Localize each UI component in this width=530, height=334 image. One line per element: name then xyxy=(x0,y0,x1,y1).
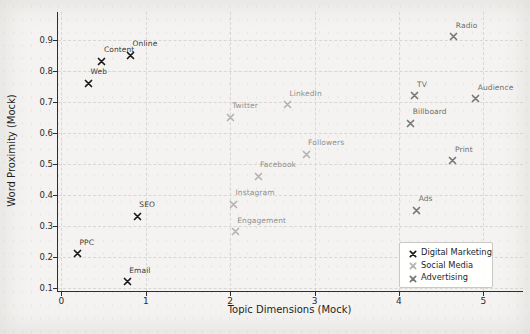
x-marker-icon xyxy=(448,156,457,165)
x-marker-icon xyxy=(412,206,421,215)
gridline-y xyxy=(58,288,523,289)
y-tick-label: 0.8 xyxy=(39,66,53,76)
data-point-label: Radio xyxy=(456,21,478,30)
y-tick-mark xyxy=(53,288,57,289)
data-point-label: Engagement xyxy=(237,216,286,225)
x-marker-icon xyxy=(123,277,132,286)
x-marker-icon xyxy=(409,275,417,283)
y-tick-label: 0.6 xyxy=(39,128,53,138)
x-marker-icon xyxy=(406,119,415,128)
y-tick-label: 0.7 xyxy=(39,97,53,107)
x-marker-icon xyxy=(471,94,480,103)
data-point-label: Billboard xyxy=(413,107,447,116)
x-marker-icon xyxy=(302,150,311,159)
y-tick-label: 0.1 xyxy=(39,283,53,293)
legend-marker xyxy=(405,268,421,287)
gridline-y xyxy=(58,133,523,134)
data-point-label: Email xyxy=(129,266,150,275)
legend-label: Digital Marketing xyxy=(421,247,492,257)
data-point-label: Instagram xyxy=(236,188,275,197)
gridline-y xyxy=(58,195,523,196)
y-tick-label: 0.9 xyxy=(39,35,53,45)
y-tick-mark xyxy=(53,71,57,72)
data-point-label: Print xyxy=(455,145,473,154)
data-point-label: SEO xyxy=(139,200,155,209)
plot-area: 0123450.10.20.30.40.50.60.70.80.9WebCont… xyxy=(57,12,523,292)
x-marker-icon xyxy=(73,249,82,258)
gridline-y xyxy=(58,71,523,72)
x-marker-icon xyxy=(410,91,419,100)
y-tick-mark xyxy=(53,164,57,165)
x-marker-icon xyxy=(97,57,106,66)
y-tick-mark xyxy=(53,226,57,227)
data-point-label: Followers xyxy=(308,138,344,147)
x-marker-icon xyxy=(254,172,263,181)
x-marker-icon xyxy=(133,212,142,221)
y-tick-mark xyxy=(53,102,57,103)
gridline-y xyxy=(58,226,523,227)
legend-label: Social Media xyxy=(421,260,473,270)
gridline-x xyxy=(315,12,316,291)
data-point-label: Web xyxy=(90,67,107,76)
data-point-label: TV xyxy=(417,80,427,89)
y-tick-mark xyxy=(53,133,57,134)
scatter-plot-figure: 0123450.10.20.30.40.50.60.70.80.9WebCont… xyxy=(0,0,530,334)
legend-label: Advertising xyxy=(421,272,468,282)
x-marker-icon xyxy=(226,113,235,122)
y-axis-label: Word Proximity (Mock) xyxy=(6,91,17,211)
x-marker-icon xyxy=(449,32,458,41)
y-tick-label: 0.2 xyxy=(39,252,53,262)
gridline-x xyxy=(61,12,62,291)
y-tick-label: 0.4 xyxy=(39,190,53,200)
legend: Digital MarketingSocial MediaAdvertising xyxy=(399,242,493,288)
gridline-x xyxy=(230,12,231,291)
y-tick-mark xyxy=(53,195,57,196)
x-marker-icon xyxy=(84,79,93,88)
x-marker-icon xyxy=(283,100,292,109)
data-point-label: Online xyxy=(133,39,158,48)
y-tick-label: 0.3 xyxy=(39,221,53,231)
data-point-label: Twitter xyxy=(232,101,258,110)
y-tick-mark xyxy=(53,257,57,258)
x-axis-label: Topic Dimensions (Mock) xyxy=(57,304,522,315)
data-point-label: PPC xyxy=(79,238,94,247)
y-tick-mark xyxy=(53,40,57,41)
x-marker-icon xyxy=(229,200,238,209)
data-point-label: Facebook xyxy=(260,160,296,169)
gridline-x xyxy=(146,12,147,291)
y-tick-label: 0.5 xyxy=(39,159,53,169)
x-marker-icon xyxy=(126,51,135,60)
data-point-label: Ads xyxy=(419,194,433,203)
data-point-label: Audience xyxy=(478,83,514,92)
data-point-label: LinkedIn xyxy=(290,89,322,98)
x-marker-icon xyxy=(231,227,240,236)
legend-row: Advertising xyxy=(405,271,487,284)
